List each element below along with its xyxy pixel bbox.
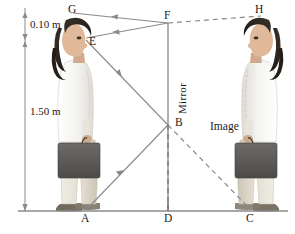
point-label-H: H bbox=[255, 4, 263, 16]
dimension-label-0.10m: 0.10 m bbox=[30, 19, 61, 30]
ray-F-E bbox=[86, 23, 168, 38]
person-image bbox=[235, 18, 283, 212]
ray-arrow-FE bbox=[112, 30, 120, 35]
point-label-D: D bbox=[164, 213, 172, 225]
point-label-C: C bbox=[246, 213, 254, 225]
dimension-axis bbox=[22, 8, 27, 211]
point-label-G: G bbox=[68, 4, 76, 16]
mirror-label: Mirror bbox=[177, 83, 188, 114]
ray-E-B bbox=[86, 40, 168, 125]
ray-G-F bbox=[73, 13, 168, 23]
point-label-B: B bbox=[175, 117, 183, 129]
point-label-F: F bbox=[164, 10, 170, 22]
image-label: Image bbox=[210, 121, 239, 133]
ray-arrow-GF bbox=[111, 14, 118, 19]
dimension-label-1.50m: 1.50 m bbox=[30, 106, 61, 117]
mirror-ray-diagram: 0.10 m 1.50 m G F H E B A D C Mirror Ima… bbox=[0, 0, 295, 234]
ray-arrow-EB bbox=[116, 69, 122, 77]
point-label-A: A bbox=[81, 213, 89, 225]
ray-arrow-AB bbox=[116, 170, 124, 176]
diagram-canvas bbox=[0, 0, 295, 234]
point-label-E: E bbox=[89, 36, 96, 48]
virtual-ray-F-H bbox=[168, 16, 261, 23]
